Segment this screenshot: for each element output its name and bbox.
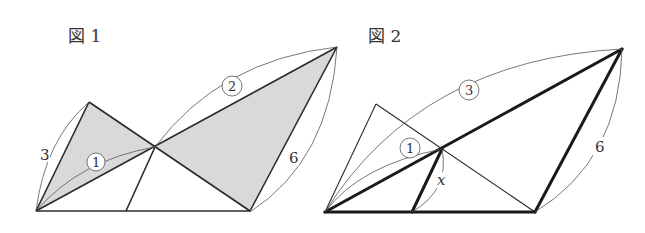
label-x: x (437, 171, 446, 189)
label-ratio-2: 2 (228, 79, 236, 94)
figure-1: 図 1 3 1 2 6 (36, 26, 337, 212)
figure-1-title: 図 1 (68, 26, 101, 46)
label-side-6: 6 (289, 149, 299, 167)
label-ratio-1: 1 (406, 141, 414, 156)
label-side-6: 6 (595, 138, 605, 156)
geometry-diagram: 図 1 3 1 2 6 図 2 (0, 0, 645, 233)
figure-2-title: 図 2 (368, 26, 401, 46)
label-ratio-3: 3 (465, 83, 473, 98)
label-side-3: 3 (40, 146, 50, 164)
left-side (325, 104, 376, 212)
apex-to-right-base (376, 104, 535, 212)
label-ratio-1: 1 (92, 155, 100, 170)
figure-2: 図 2 1 3 6 x (325, 26, 622, 212)
